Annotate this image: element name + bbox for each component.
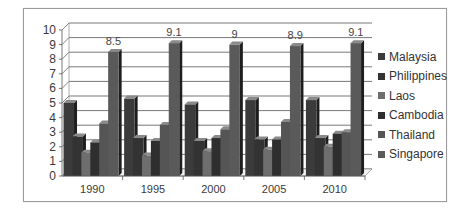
data-label: 8.5 xyxy=(106,35,121,47)
y-tick-label: 4 xyxy=(49,111,56,125)
legend-label: Cambodia xyxy=(389,108,444,122)
x-tick-label: 2010 xyxy=(322,183,346,195)
legend-item-thailand: Thailand xyxy=(378,125,447,145)
y-tick-label: 5 xyxy=(49,96,56,110)
legend-swatch-icon xyxy=(378,73,385,80)
legend-label: Malaysia xyxy=(389,50,436,64)
legend-swatch-icon xyxy=(378,53,385,60)
legend-item-philippines: Philippines xyxy=(378,67,447,87)
legend-label: Philippines xyxy=(389,69,447,83)
legend-label: Thailand xyxy=(389,128,435,142)
x-tick-label: 2000 xyxy=(201,183,225,195)
legend-swatch-icon xyxy=(378,151,385,158)
legend-item-singapore: Singapore xyxy=(378,145,447,165)
legend-label: Laos xyxy=(389,89,415,103)
bar-singapore xyxy=(229,45,240,176)
y-tick-label: 1 xyxy=(49,154,56,168)
data-label: 9.1 xyxy=(348,26,363,38)
chart-legend: MalaysiaPhilippinesLaosCambodiaThailandS… xyxy=(378,47,447,164)
y-tick-label: 3 xyxy=(49,125,56,139)
y-tick-label: 2 xyxy=(49,140,56,154)
x-tick-label: 2005 xyxy=(262,183,286,195)
bar-singapore xyxy=(290,46,301,176)
bar-singapore xyxy=(108,52,119,176)
data-label: 8.9 xyxy=(288,29,303,41)
bar-singapore xyxy=(351,43,362,176)
bar-thailand xyxy=(281,122,292,176)
y-tick-label: 0 xyxy=(49,169,56,183)
y-tick-label: 9 xyxy=(49,38,56,52)
legend-swatch-icon xyxy=(378,112,385,119)
bar-singapore xyxy=(169,43,180,176)
y-tick-label: 6 xyxy=(49,81,56,95)
legend-item-laos: Laos xyxy=(378,86,447,106)
data-label: 9.1 xyxy=(166,26,181,38)
y-tick-label: 7 xyxy=(49,67,56,81)
y-tick-label: 10 xyxy=(43,23,57,37)
bar-laos xyxy=(324,147,335,176)
bar-malaysia xyxy=(306,100,317,176)
legend-swatch-icon xyxy=(378,92,385,99)
x-tick-label: 1995 xyxy=(141,183,165,195)
legend-item-malaysia: Malaysia xyxy=(378,47,447,67)
bar-laos xyxy=(263,150,274,176)
y-tick-label: 8 xyxy=(49,52,56,66)
legend-swatch-icon xyxy=(378,131,385,138)
x-tick-label: 1990 xyxy=(80,183,104,195)
legend-item-cambodia: Cambodia xyxy=(378,106,447,126)
data-label: 9 xyxy=(232,28,238,40)
legend-label: Singapore xyxy=(389,147,444,161)
